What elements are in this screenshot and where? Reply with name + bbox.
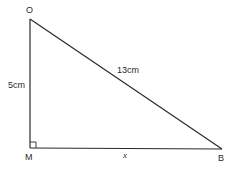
side-label-mb: x [122,150,127,160]
right-angle-marker [30,142,36,148]
right-triangle-diagram: O M B 5cm 13cm x [0,0,236,175]
side-label-ob: 13cm [117,65,139,75]
vertex-label-o: O [26,5,33,15]
vertex-label-b: B [218,153,224,163]
vertex-label-m: M [25,152,33,162]
side-ob-hypotenuse [30,19,222,149]
side-label-om: 5cm [8,80,25,90]
side-mb [30,148,222,149]
